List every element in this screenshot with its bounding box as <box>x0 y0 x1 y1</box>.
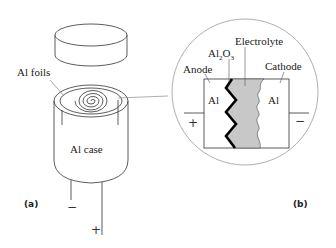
sign-negative-b: − <box>295 114 305 128</box>
label-cathode-metal: Al <box>268 94 279 106</box>
label-anode: Anode <box>183 63 212 75</box>
label-al-case: Al case <box>70 143 103 155</box>
foils-leader <box>50 80 64 96</box>
sign-positive-a: + <box>91 223 101 237</box>
capacitor-case <box>54 85 128 183</box>
electrolyte-region <box>226 79 264 148</box>
label-cathode: Cathode <box>265 60 302 72</box>
sign-positive-b: + <box>188 116 198 130</box>
label-anode-metal: Al <box>208 94 219 106</box>
zoom-connector <box>118 96 168 98</box>
tag-a: (a) <box>24 199 38 209</box>
label-al-foils: Al foils <box>17 66 50 78</box>
tag-b: (b) <box>293 199 308 209</box>
foil-spiral <box>75 91 107 112</box>
capacitor-diagram: Al foils Al case (a) − + Electrolyte Al2… <box>0 0 336 248</box>
capacitor-lid <box>55 24 127 66</box>
label-electrolyte: Electrolyte <box>235 35 283 47</box>
sign-negative-a: − <box>67 200 77 214</box>
